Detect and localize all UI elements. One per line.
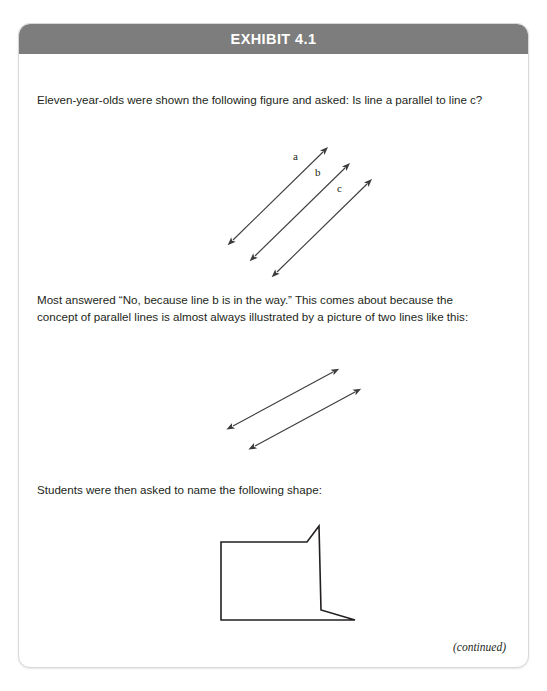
two-parallel-lines-svg bbox=[19, 364, 528, 464]
exhibit-card: EXHIBIT 4.1 Eleven-year-olds were shown … bbox=[18, 23, 529, 668]
shape-svg bbox=[19, 524, 528, 639]
shape-prompt-paragraph: Students were then asked to name the fol… bbox=[37, 481, 492, 499]
upper-parallel-line bbox=[233, 372, 333, 426]
exhibit-header: EXHIBIT 4.1 bbox=[19, 24, 528, 54]
question-paragraph: Eleven-year-olds were shown the followin… bbox=[37, 91, 492, 109]
answer-paragraph: Most answered “No, because line b is in … bbox=[37, 291, 492, 326]
exhibit-title: EXHIBIT 4.1 bbox=[231, 31, 317, 47]
three-lines-group: a b c bbox=[233, 150, 367, 272]
continued-note: (continued) bbox=[453, 641, 506, 653]
line-c-label: c bbox=[337, 182, 342, 194]
irregular-quadrilateral-shape bbox=[19, 524, 528, 639]
two-parallel-lines-diagram bbox=[19, 364, 528, 464]
line-b-label: b bbox=[315, 166, 321, 178]
two-lines-group bbox=[233, 372, 355, 446]
exhibit-body: Eleven-year-olds were shown the followin… bbox=[19, 54, 528, 667]
three-parallel-lines-diagram: a b c bbox=[19, 142, 528, 287]
line-a-label: a bbox=[293, 150, 298, 162]
line-c bbox=[277, 184, 367, 272]
line-b bbox=[255, 168, 345, 256]
shape-group bbox=[221, 526, 355, 620]
line-a bbox=[233, 152, 323, 240]
lower-parallel-line bbox=[255, 392, 355, 446]
shape-outline bbox=[221, 526, 355, 620]
three-parallel-lines-svg: a b c bbox=[19, 142, 528, 287]
